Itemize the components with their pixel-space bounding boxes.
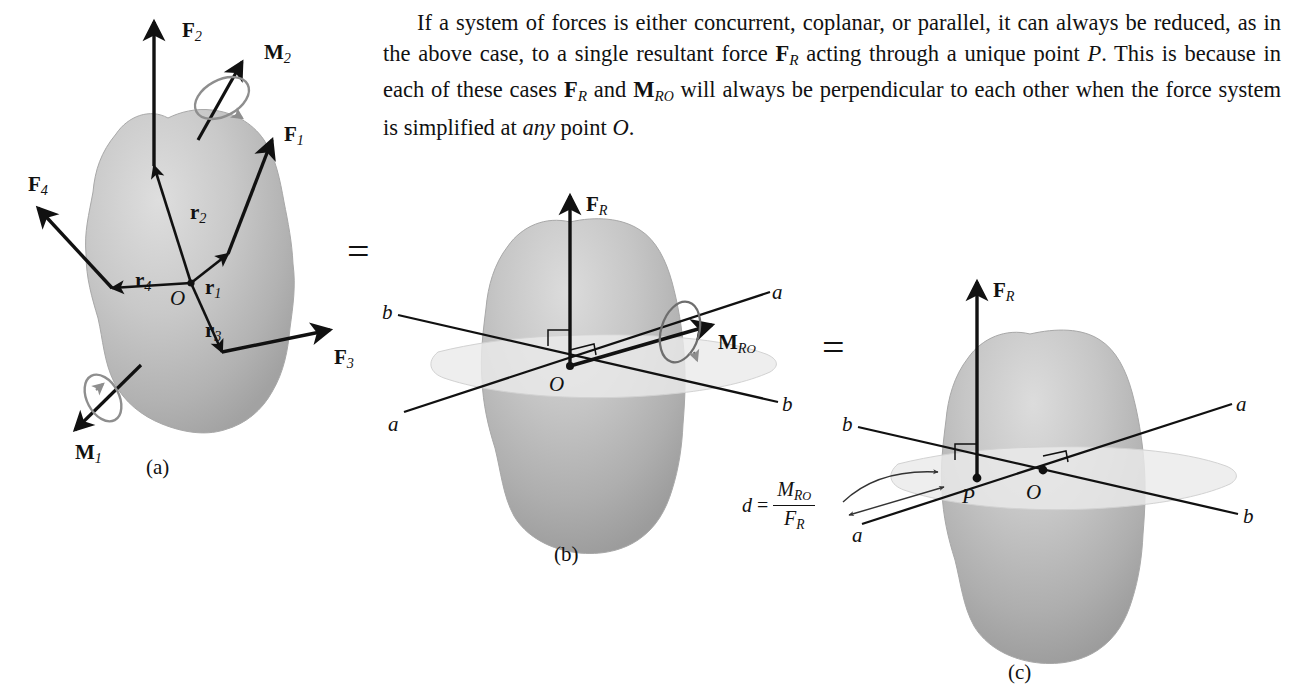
formula-fraction: MRO FR [773, 478, 815, 533]
distance-formula: d = MRO FR [742, 478, 815, 533]
label-axis-a-top-c: a [1236, 392, 1247, 417]
formula-denominator: FR [773, 506, 815, 533]
label-position-r2: r2 [190, 200, 206, 227]
figure-canvas [0, 0, 1293, 698]
formula-numerator: MRO [773, 478, 815, 506]
equals-sign-2: = [822, 324, 845, 371]
diagram-b [398, 196, 778, 554]
origin-point-b [566, 362, 574, 370]
diagram-c [843, 282, 1238, 664]
label-point-p: P [962, 484, 975, 509]
label-resultant-force-c: FR [993, 278, 1015, 305]
label-position-r4: r4 [135, 268, 151, 295]
caption-a: (a) [146, 455, 169, 480]
caption-c: (c) [1008, 660, 1031, 685]
label-position-r1: r1 [205, 275, 221, 302]
label-force-f1: F1 [284, 122, 304, 149]
label-moment-m1: M1 [75, 440, 102, 467]
label-axis-b-right-b: b [782, 392, 793, 417]
label-origin-a: O [170, 286, 185, 311]
label-position-r3: r3 [205, 318, 221, 345]
label-origin-b: O [549, 372, 564, 397]
label-force-f4: F4 [28, 172, 48, 199]
reference-plane-c [891, 447, 1237, 510]
label-resultant-moment-b: MRO [718, 330, 756, 357]
couple-arc-arrow-m1 [96, 384, 103, 390]
formula-d: d [742, 494, 752, 517]
origin-point-a [187, 279, 194, 286]
label-axis-b-right-c: b [1243, 504, 1254, 529]
label-axis-a-top-b: a [772, 280, 783, 305]
caption-b: (b) [554, 542, 579, 567]
diagram-a [38, 22, 330, 433]
label-origin-c: O [1026, 480, 1041, 505]
label-moment-m2: M2 [264, 40, 291, 67]
label-axis-b-left-c: b [842, 412, 853, 437]
label-force-f2: F2 [182, 18, 202, 45]
label-resultant-force-b: FR [586, 192, 608, 219]
label-axis-b-left-b: b [382, 300, 393, 325]
origin-point-c [1039, 466, 1048, 475]
formula-equals: = [757, 494, 768, 517]
label-axis-a-bottom-c: a [852, 523, 863, 548]
label-force-f3: F3 [334, 345, 354, 372]
equals-sign-1: = [347, 228, 370, 275]
label-axis-a-bottom-b: a [388, 412, 399, 437]
point-p-marker [973, 474, 982, 483]
rigid-body-a [86, 109, 295, 432]
